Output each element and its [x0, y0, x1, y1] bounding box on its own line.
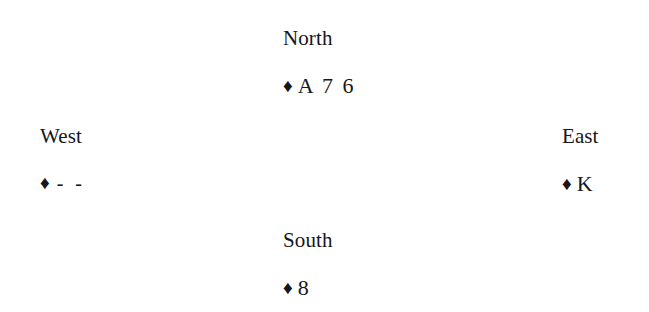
diamond-suit-icon: ♦ — [283, 278, 293, 297]
bridge-hand-diagram: North ♦ A 7 6 West ♦ - - East ♦ K South … — [0, 0, 649, 312]
hand-label-north: North — [283, 28, 355, 49]
hand-west: West ♦ - - — [40, 126, 86, 193]
diamond-suit-icon: ♦ — [562, 174, 572, 193]
hand-cards-north: ♦ A 7 6 — [283, 75, 355, 97]
diamond-suit-icon: ♦ — [283, 76, 293, 95]
hand-label-west: West — [40, 126, 86, 147]
hand-label-east: East — [562, 126, 599, 147]
hand-east: East ♦ K — [562, 126, 599, 195]
card-ranks-east: K — [577, 173, 595, 195]
card-ranks-west: - - — [57, 173, 86, 193]
card-ranks-north: A 7 6 — [298, 75, 356, 97]
hand-cards-south: ♦ 8 — [283, 277, 333, 299]
hand-north: North ♦ A 7 6 — [283, 28, 355, 97]
hand-cards-west: ♦ - - — [40, 173, 86, 193]
hand-cards-east: ♦ K — [562, 173, 599, 195]
hand-south: South ♦ 8 — [283, 230, 333, 299]
hand-label-south: South — [283, 230, 333, 251]
diamond-suit-icon: ♦ — [40, 173, 50, 192]
card-ranks-south: 8 — [298, 277, 311, 299]
